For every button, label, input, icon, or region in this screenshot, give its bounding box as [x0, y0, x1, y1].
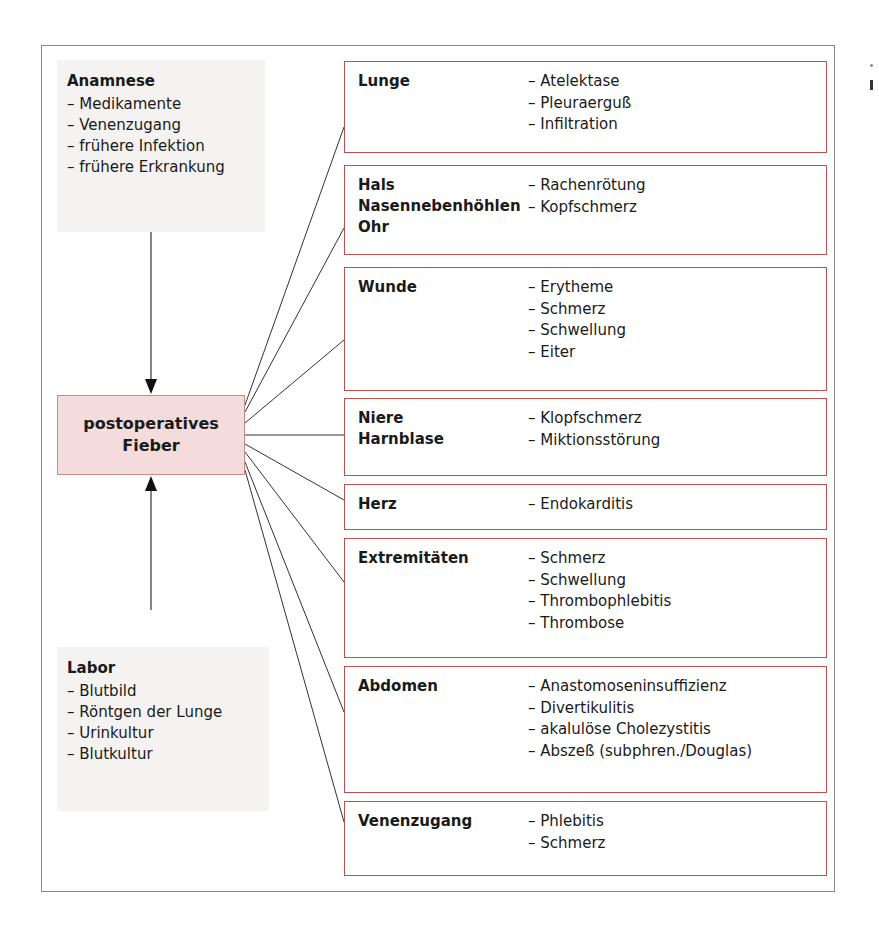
symptom: – Infiltration [528, 114, 631, 136]
labor-item: – Blutbild [67, 681, 259, 702]
anamnese-item: – Venenzugang [67, 115, 255, 136]
anamnese-item: – Medikamente [67, 94, 255, 115]
symptom: – Schmerz [528, 299, 626, 321]
anamnese-title: Anamnese [67, 72, 255, 90]
arrowhead-down-icon [145, 379, 157, 394]
symptom: – Schmerz [528, 548, 671, 570]
labor-title: Labor [67, 659, 259, 677]
labor-item: – Röntgen der Lunge [67, 702, 259, 723]
category-name: Hals [358, 175, 528, 196]
symptom: – Schwellung [528, 320, 626, 342]
symptom: – Anastomoseninsuffizienz [528, 676, 752, 698]
anamnese-item: – frühere Erkrankung [67, 157, 255, 178]
symptom: – Miktionsstörung [528, 430, 660, 452]
symptom: – akalulöse Cholezystitis [528, 719, 752, 741]
category-niere-harnblase: Niere Harnblase – Klopfschmerz – Miktion… [344, 398, 827, 476]
arrowhead-up-icon [145, 476, 157, 491]
anamnese-box: Anamnese – Medikamente – Venenzugang – f… [57, 60, 265, 232]
category-name: Wunde [358, 277, 528, 298]
symptom: – Pleuraerguß [528, 93, 631, 115]
category-name: Niere [358, 408, 528, 429]
category-wunde: Wunde – Erytheme – Schmerz – Schwellung … [344, 267, 827, 391]
symptom: – Thrombose [528, 613, 671, 635]
symptom: – Phlebitis [528, 811, 605, 833]
category-name: Lunge [358, 71, 528, 92]
symptom: – Abszeß (subphren./Douglas) [528, 741, 752, 763]
category-name: Nasennebenhöhlen [358, 196, 528, 217]
symptom: – Divertikulitis [528, 698, 752, 720]
symptom: – Kopfschmerz [528, 197, 645, 219]
symptom: – Thrombophlebitis [528, 591, 671, 613]
category-name: Extremitäten [358, 548, 528, 569]
category-name: Ohr [358, 217, 528, 238]
symptom: – Endokarditis [528, 494, 633, 516]
symptom: – Klopfschmerz [528, 408, 660, 430]
symptom: – Rachenrötung [528, 175, 645, 197]
symptom: – Schwellung [528, 570, 671, 592]
labor-box: Labor – Blutbild – Röntgen der Lunge – U… [57, 647, 269, 811]
category-lunge: Lunge – Atelektase – Pleuraerguß – Infil… [344, 61, 827, 153]
symptom: – Atelektase [528, 71, 631, 93]
category-name: Harnblase [358, 429, 528, 450]
category-herz: Herz – Endokarditis [344, 484, 827, 530]
category-abdomen: Abdomen – Anastomoseninsuffizienz – Dive… [344, 666, 827, 793]
labor-item: – Blutkultur [67, 744, 259, 765]
category-venenzugang: Venenzugang – Phlebitis – Schmerz [344, 801, 827, 876]
connector-wunde [245, 340, 344, 423]
category-name: Venenzugang [358, 811, 528, 832]
postoperative-fever-box: postoperatives Fieber [57, 395, 245, 475]
center-label-line2: Fieber [122, 435, 179, 457]
category-extremitaeten: Extremitäten – Schmerz – Schwellung – Th… [344, 538, 827, 658]
labor-item: – Urinkultur [67, 723, 259, 744]
center-label-line1: postoperatives [83, 413, 219, 435]
symptom: – Erytheme [528, 277, 626, 299]
symptom: – Eiter [528, 342, 626, 364]
anamnese-item: – frühere Infektion [67, 136, 255, 157]
connector-hals [245, 228, 344, 412]
symptom: – Schmerz [528, 833, 605, 855]
category-name: Abdomen [358, 676, 528, 697]
category-hals-nasennebenhoehlen-ohr: Hals Nasennebenhöhlen Ohr – Rachenrötung… [344, 165, 827, 255]
category-name: Herz [358, 494, 528, 515]
